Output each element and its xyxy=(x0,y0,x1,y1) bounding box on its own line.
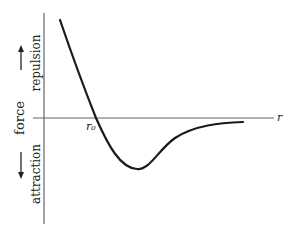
arrow-up-icon xyxy=(18,45,24,70)
force-curve xyxy=(60,20,243,169)
r-axis-label: r xyxy=(277,111,283,124)
arrow-down-icon xyxy=(18,152,24,179)
repulsion-label: repulsion xyxy=(29,34,43,91)
force-diagram: force repulsion attraction r r₀ xyxy=(0,0,294,234)
force-label: force xyxy=(12,101,27,135)
attraction-label: attraction xyxy=(29,144,43,204)
r0-label: r₀ xyxy=(86,120,96,133)
